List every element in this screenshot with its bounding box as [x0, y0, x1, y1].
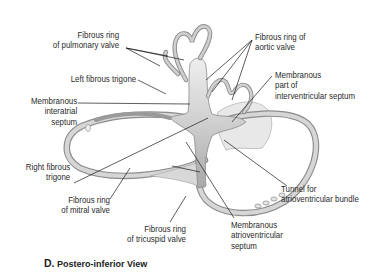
label-right-fibrous-trigone: Right fibrous trigone — [26, 162, 70, 183]
label-line: interatrial — [31, 106, 77, 116]
label-line: Left fibrous trigone — [71, 74, 136, 84]
label-line: of mitral valve — [61, 205, 110, 215]
caption-text: Postero-inferior View — [57, 259, 147, 269]
label-line: Fibrous ring — [127, 224, 186, 234]
label-line: Right fibrous — [26, 162, 70, 172]
label-line: of tricuspid valve — [127, 234, 186, 244]
label-line: Membranous — [275, 70, 355, 80]
label-line: part of — [275, 80, 355, 90]
label-line: aortic valve — [255, 42, 306, 52]
label-line: atrioventricular bundle — [281, 194, 359, 204]
caption-letter: D. — [44, 257, 55, 269]
label-line: Fibrous ring — [53, 30, 119, 40]
label-fibrous-ring-mitral-valve: Fibrous ring of mitral valve — [61, 195, 110, 216]
label-line: atrioventricular — [231, 230, 283, 240]
label-line: trigone — [26, 172, 70, 182]
label-line: interventricular septum — [275, 91, 355, 101]
label-line: Tunnel for — [281, 184, 359, 194]
label-line: septum — [231, 241, 283, 251]
label-fibrous-ring-pulmonary-valve: Fibrous ring of pulmonary valve — [53, 30, 119, 51]
figure-caption: D. Postero-inferior View — [44, 257, 147, 269]
label-line: Membranous — [31, 96, 77, 106]
label-membranous-av-septum: Membranous atrioventricular septum — [231, 220, 283, 251]
label-membranous-interatrial-septum: Membranous interatrial septum — [31, 96, 77, 127]
label-line: Membranous — [231, 220, 283, 230]
label-line: Fibrous ring of — [255, 32, 306, 42]
label-fibrous-ring-aortic-valve: Fibrous ring of aortic valve — [255, 32, 306, 53]
label-membranous-interventricular-septum: Membranous part of interventricular sept… — [275, 70, 355, 101]
label-line: of pulmonary valve — [53, 40, 119, 50]
label-line: septum — [31, 117, 77, 127]
label-line: Fibrous ring — [61, 195, 110, 205]
label-tunnel-av-bundle: Tunnel for atrioventricular bundle — [281, 184, 359, 205]
label-fibrous-ring-tricuspid-valve: Fibrous ring of tricuspid valve — [127, 224, 186, 245]
label-left-fibrous-trigone: Left fibrous trigone — [71, 74, 136, 84]
